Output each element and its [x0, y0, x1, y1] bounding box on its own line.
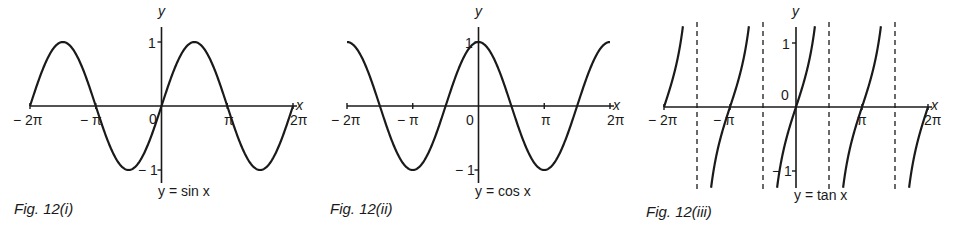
fig1-tick-pi: π — [224, 113, 234, 127]
fig2-caption: Fig. 12(ii) — [330, 200, 393, 217]
fig2-tick-pi: π — [541, 113, 551, 127]
fig3-tick-pi: π — [857, 113, 867, 127]
fig1-tick-1: 1 — [148, 36, 156, 50]
fig1-y-axis-label: y — [158, 4, 165, 18]
fig1-origin-label: 0 — [149, 112, 157, 126]
fig2-origin-label: 0 — [466, 113, 474, 127]
fig1-tick-mpi: − π — [80, 113, 102, 127]
fig3-tick-m1: − 1 — [772, 164, 792, 178]
fig3-origin-label: 0 — [781, 88, 789, 102]
fig3-tick-mpi: − π — [713, 113, 735, 127]
fig1-tick-2pi: 2π — [290, 113, 307, 127]
fig3-caption: Fig. 12(iii) — [646, 203, 712, 220]
fig2-tick-m1: − 1 — [455, 163, 475, 177]
fig3-tick-m2pi: − 2π — [648, 113, 678, 127]
fig2-tick-2pi: 2π — [607, 113, 624, 127]
fig3-tick-1: 1 — [782, 37, 790, 51]
fig2-equation: y = cos x — [475, 184, 531, 198]
fig2-x-axis-label: x — [613, 98, 620, 112]
fig1-equation: y = sin x — [158, 184, 210, 198]
fig2-tick-mpi: − π — [397, 113, 419, 127]
fig2-tick-m2pi: − 2π — [331, 113, 361, 127]
fig1-caption: Fig. 12(i) — [14, 200, 73, 217]
fig3-tick-2pi: 2π — [924, 113, 941, 127]
fig1-tick-m2pi: − 2π — [13, 113, 43, 127]
fig1-x-axis-label: x — [296, 98, 303, 112]
fig3-y-axis-label: y — [792, 4, 799, 18]
fig3-equation: y = tan x — [794, 188, 847, 202]
fig2-y-axis-label: y — [475, 4, 482, 18]
fig3-x-axis-label: x — [931, 98, 938, 112]
fig2-tick-1: 1 — [465, 36, 473, 50]
fig1-tick-m1: − 1 — [138, 163, 158, 177]
fig3-curve — [664, 26, 683, 107]
